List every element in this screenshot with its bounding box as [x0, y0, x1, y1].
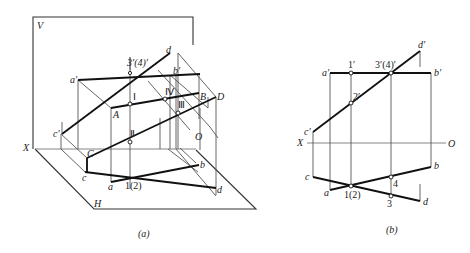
label-d: d	[217, 184, 223, 195]
label-c-b: c	[305, 171, 310, 182]
label-origin: O	[195, 131, 202, 142]
label-d-top: d	[166, 44, 172, 55]
label-b-b: b	[434, 160, 439, 171]
label-a-b: a	[324, 187, 329, 198]
label-I: Ⅰ	[133, 91, 136, 102]
projection-diagram: V H X O a′ b′ c′ d 3′(4)′ A B C D Ⅰ Ⅱ Ⅲ …	[0, 0, 470, 253]
ab-top-line	[330, 167, 431, 190]
label-2-prime-b: 2′	[353, 91, 360, 102]
label-c-prime-b: c′	[304, 126, 311, 137]
label-c-prime: c′	[53, 128, 60, 139]
label-c: c	[82, 172, 87, 183]
label-origin-b: O	[448, 138, 455, 149]
label-a-prime-b: a′	[322, 67, 330, 78]
label-d-prime-b: d′	[418, 39, 426, 50]
label-b-prime: b′	[173, 65, 181, 76]
label-1-2-b: 1(2)	[344, 189, 361, 201]
label-b: b	[200, 159, 205, 170]
label-h-plane: H	[93, 198, 102, 209]
label-3-b: 3	[387, 198, 392, 209]
label-1-prime-b: 1′	[348, 59, 355, 70]
caption-a: (a)	[138, 228, 150, 240]
cd-top-line	[313, 177, 420, 201]
label-D: D	[216, 91, 225, 102]
figure-b: X O a′ b′ c′ d′ 1′ 2′ 3′(4)′ a b c d 1(2…	[296, 39, 455, 236]
label-C: C	[87, 148, 94, 159]
label-a-prime: a′	[70, 74, 78, 85]
label-a: a	[108, 181, 113, 192]
label-1-2: 1(2)	[125, 180, 142, 192]
label-A: A	[112, 109, 120, 120]
label-x-axis-b: X	[296, 137, 304, 148]
label-b-prime-b: b′	[434, 67, 442, 78]
label-II: Ⅱ	[130, 128, 135, 139]
label-d-b: d	[423, 196, 429, 207]
label-III: Ⅲ	[178, 99, 185, 110]
label-4-b: 4	[393, 178, 398, 189]
figure-a: V H X O a′ b′ c′ d 3′(4)′ A B C D Ⅰ Ⅱ Ⅲ …	[22, 17, 256, 240]
caption-b: (b)	[386, 224, 398, 236]
label-3-4-prime-b: 3′(4)′	[375, 59, 396, 71]
label-3-4-prime: 3′(4)′	[126, 57, 149, 69]
label-B: B	[200, 91, 206, 102]
label-IV: Ⅳ	[165, 86, 175, 97]
cd-front-line	[313, 51, 420, 132]
label-v-plane: V	[37, 20, 45, 31]
label-x-axis: X	[22, 142, 30, 153]
